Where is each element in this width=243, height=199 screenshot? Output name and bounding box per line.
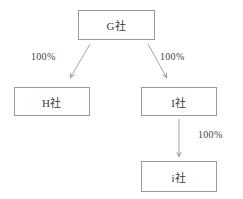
edge-label-g-to-i: 100% <box>160 51 185 62</box>
node-g-label: G社 <box>107 17 127 33</box>
edge-g-to-h <box>71 44 91 78</box>
node-h-company: H社 <box>14 87 90 116</box>
node-i-lowercase-company: i社 <box>141 161 217 192</box>
edge-label-g-to-h: 100% <box>31 51 56 62</box>
node-h-label: H社 <box>42 94 62 110</box>
node-i-company: I社 <box>141 87 217 116</box>
node-i-lowercase-label: i社 <box>171 169 186 185</box>
ownership-diagram: G社 H社 I社 i社 100% 100% 100% <box>0 0 243 199</box>
node-g-company: G社 <box>78 10 155 40</box>
edge-label-i-to-i2: 100% <box>198 129 223 140</box>
node-i-label: I社 <box>171 94 187 110</box>
